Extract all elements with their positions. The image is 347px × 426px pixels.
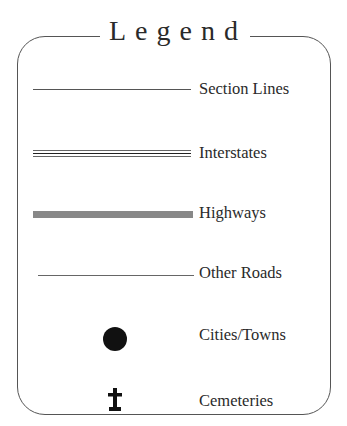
legend-item-highways: Highways	[0, 200, 347, 230]
hairline-icon	[38, 275, 194, 276]
legend-item-interstates: Interstates	[0, 140, 347, 170]
legend-label: Highways	[199, 203, 266, 223]
legend-label: Cities/Towns	[199, 325, 286, 345]
filled-circle-icon	[103, 327, 127, 351]
legend-item-other-roads: Other Roads	[0, 260, 347, 290]
legend-label: Section Lines	[199, 79, 289, 99]
legend-label: Cemeteries	[199, 391, 273, 411]
legend-title: Legend	[100, 13, 250, 49]
legend-item-cemeteries: Cemeteries	[0, 388, 347, 418]
legend-label: Other Roads	[199, 263, 282, 283]
legend-item-cities-towns: Cities/Towns	[0, 322, 347, 352]
triple-line-icon	[33, 150, 191, 157]
cross-tombstone-icon	[107, 388, 123, 412]
thick-gray-line-icon	[33, 211, 193, 218]
thin-line-icon	[33, 89, 191, 90]
legend-item-section-lines: Section Lines	[0, 76, 347, 106]
legend-label: Interstates	[199, 143, 267, 163]
